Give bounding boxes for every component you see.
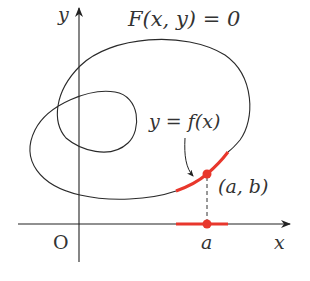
label-pointer-arrow bbox=[185, 138, 193, 176]
origin-label: O bbox=[53, 231, 69, 253]
x-axis-label: x bbox=[274, 231, 285, 253]
point-a bbox=[203, 220, 212, 229]
equation-label: F(x, y) = 0 bbox=[127, 7, 240, 31]
diagram-canvas: y F(x, y) = 0 y = f(x) (a, b) O a x bbox=[0, 0, 310, 281]
point-a-b bbox=[203, 170, 212, 179]
implicit-function-diagram: y F(x, y) = 0 y = f(x) (a, b) O a x bbox=[0, 0, 310, 281]
y-axis-label: y bbox=[57, 3, 69, 25]
point-label: (a, b) bbox=[218, 175, 268, 197]
x-tick-label-a: a bbox=[201, 231, 212, 253]
function-label: y = f(x) bbox=[148, 110, 220, 132]
